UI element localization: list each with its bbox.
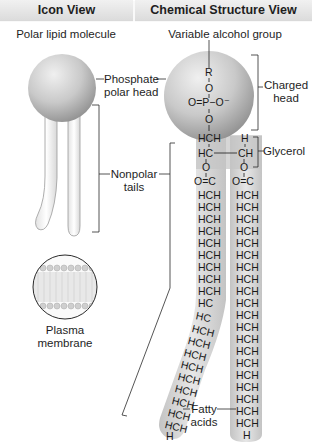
svg-text:HCH: HCH bbox=[236, 381, 259, 393]
svg-text:O=C: O=C bbox=[194, 175, 216, 187]
svg-text:HCH: HCH bbox=[236, 321, 259, 333]
label-phosphate-line2: polar head bbox=[104, 86, 158, 99]
svg-text:CH: CH bbox=[238, 147, 253, 159]
label-charged-line1: Charged bbox=[262, 79, 310, 92]
svg-text:HCH: HCH bbox=[236, 225, 259, 237]
label-fatty-line1: Fatty bbox=[188, 403, 220, 416]
svg-text:H: H bbox=[166, 430, 174, 442]
label-fatty-line2: acids bbox=[188, 416, 220, 429]
svg-text:HCH: HCH bbox=[236, 249, 259, 261]
label-phosphate-polar-head: Phosphate polar head bbox=[104, 73, 158, 99]
svg-text:O=P−O⁻: O=P−O⁻ bbox=[188, 96, 230, 108]
svg-text:HCH: HCH bbox=[236, 201, 259, 213]
icon-polar-head bbox=[28, 54, 96, 122]
svg-text:HCH: HCH bbox=[198, 132, 221, 144]
svg-text:HCH: HCH bbox=[236, 261, 259, 273]
svg-text:HCH: HCH bbox=[236, 285, 259, 297]
svg-text:HCH: HCH bbox=[236, 273, 259, 285]
label-phosphate-line1: Phosphate bbox=[104, 73, 158, 86]
svg-text:HCH: HCH bbox=[198, 237, 221, 249]
svg-text:HCH: HCH bbox=[198, 225, 221, 237]
label-fatty-acids: Fatty acids bbox=[188, 403, 220, 429]
svg-text:HCH: HCH bbox=[198, 273, 221, 285]
svg-text:O: O bbox=[205, 82, 213, 94]
label-glycerol: Glycerol bbox=[263, 145, 311, 158]
svg-text:HCH: HCH bbox=[236, 213, 259, 225]
label-charged-line2: head bbox=[262, 92, 310, 105]
svg-text:HC: HC bbox=[198, 297, 214, 309]
svg-text:HCH: HCH bbox=[236, 405, 259, 417]
label-nonpolar-tails: Nonpolar tails bbox=[108, 168, 160, 194]
svg-text:HCH: HCH bbox=[236, 357, 259, 369]
label-variable-alcohol-text: Variable alcohol group bbox=[168, 28, 282, 40]
svg-text:HCH: HCH bbox=[236, 369, 259, 381]
svg-text:HCH: HCH bbox=[236, 333, 259, 345]
svg-text:HC: HC bbox=[198, 147, 214, 159]
svg-text:HCH: HCH bbox=[236, 189, 259, 201]
label-variable-alcohol-group: Variable alcohol group bbox=[150, 28, 300, 41]
svg-text:HCH: HCH bbox=[236, 393, 259, 405]
svg-text:HCH: HCH bbox=[198, 249, 221, 261]
label-nonpolar-line1: Nonpolar bbox=[108, 168, 160, 181]
label-polar-lipid-text: Polar lipid molecule bbox=[16, 28, 116, 40]
label-nonpolar-line2: tails bbox=[108, 181, 160, 194]
svg-text:HCH: HCH bbox=[236, 297, 259, 309]
label-polar-lipid-molecule: Polar lipid molecule bbox=[4, 28, 128, 41]
svg-text:HCH: HCH bbox=[198, 201, 221, 213]
svg-text:R: R bbox=[205, 66, 213, 78]
svg-text:H: H bbox=[243, 429, 251, 441]
svg-text:H: H bbox=[241, 132, 249, 144]
svg-text:HCH: HCH bbox=[236, 417, 259, 429]
label-membrane-line1: Plasma bbox=[30, 324, 100, 337]
svg-text:HCH: HCH bbox=[236, 237, 259, 249]
label-plasma-membrane: Plasma membrane bbox=[30, 324, 100, 350]
svg-text:O: O bbox=[205, 113, 213, 125]
svg-text:O: O bbox=[240, 161, 248, 173]
label-glycerol-text: Glycerol bbox=[263, 145, 305, 157]
svg-text:HCH: HCH bbox=[198, 213, 221, 225]
svg-text:O=C: O=C bbox=[232, 175, 254, 187]
svg-text:HCH: HCH bbox=[198, 261, 221, 273]
svg-text:HCH: HCH bbox=[198, 189, 221, 201]
icon-nonpolar-tails bbox=[36, 112, 81, 236]
svg-text:HCH: HCH bbox=[236, 309, 259, 321]
bracket-icon-tails bbox=[92, 105, 99, 232]
diagram-canvas: R O O=P−O⁻ O HCH H HC CH O O O=C O=C HCH… bbox=[0, 0, 312, 442]
svg-text:HCH: HCH bbox=[198, 285, 221, 297]
label-membrane-line2: membrane bbox=[30, 337, 100, 350]
right-fatty-acid-chain: HCHHCHHCH HCHHCHHCH HCHHCHHCH HCHHCHHCH … bbox=[236, 189, 259, 441]
svg-text:HCH: HCH bbox=[236, 345, 259, 357]
plasma-membrane-inset bbox=[30, 255, 100, 319]
label-charged-head: Charged head bbox=[262, 79, 310, 105]
svg-text:O: O bbox=[202, 161, 210, 173]
